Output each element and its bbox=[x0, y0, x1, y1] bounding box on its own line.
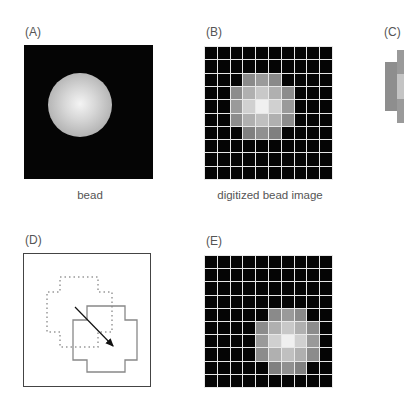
pixel-cell bbox=[218, 348, 230, 360]
pixel-cell bbox=[320, 335, 332, 347]
pixel-cell bbox=[320, 348, 332, 360]
pixel-cell bbox=[282, 296, 294, 308]
pixel-cell bbox=[218, 322, 230, 334]
pixel-cell bbox=[269, 348, 281, 360]
pixel-cell bbox=[282, 309, 294, 321]
pixel-cell bbox=[307, 256, 319, 268]
pixel-cell bbox=[282, 269, 294, 281]
pixel-cell bbox=[218, 256, 230, 268]
pixel-cell bbox=[205, 269, 217, 281]
pixel-cell bbox=[205, 335, 217, 347]
pixel-cell bbox=[256, 269, 268, 281]
pixel-cell bbox=[231, 348, 243, 360]
pixel-cell bbox=[307, 309, 319, 321]
pixel-cell bbox=[269, 256, 281, 268]
pixel-cell bbox=[307, 282, 319, 294]
pixel-cell bbox=[282, 335, 294, 347]
panel-e-label: (E) bbox=[206, 234, 222, 248]
pixel-cell bbox=[243, 282, 255, 294]
pixel-cell bbox=[243, 296, 255, 308]
pixel-cell bbox=[295, 335, 307, 347]
pixel-cell bbox=[269, 296, 281, 308]
pixel-cell bbox=[307, 269, 319, 281]
pixel-cell bbox=[205, 282, 217, 294]
pixel-cell bbox=[295, 348, 307, 360]
pixel-cell bbox=[307, 348, 319, 360]
pixel-cell bbox=[320, 322, 332, 334]
pixel-cell bbox=[320, 282, 332, 294]
pixel-cell bbox=[218, 282, 230, 294]
pixel-cell bbox=[282, 362, 294, 374]
pixel-cell bbox=[231, 309, 243, 321]
pixel-cell bbox=[243, 269, 255, 281]
pixel-cell bbox=[320, 296, 332, 308]
pixel-cell bbox=[256, 335, 268, 347]
pixel-cell bbox=[256, 348, 268, 360]
pixel-cell bbox=[218, 362, 230, 374]
pixel-cell bbox=[307, 296, 319, 308]
pixel-cell bbox=[282, 256, 294, 268]
pixel-cell bbox=[320, 375, 332, 387]
pixel-cell bbox=[295, 282, 307, 294]
pixel-cell bbox=[282, 322, 294, 334]
shifted-position-outline bbox=[73, 306, 137, 372]
pixel-cell bbox=[295, 269, 307, 281]
pixel-cell bbox=[269, 269, 281, 281]
pixel-cell bbox=[256, 256, 268, 268]
pixel-cell bbox=[269, 375, 281, 387]
pixel-cell bbox=[205, 309, 217, 321]
displacement-diagram bbox=[0, 0, 404, 395]
pixel-cell bbox=[243, 335, 255, 347]
pixel-cell bbox=[269, 309, 281, 321]
pixel-cell bbox=[320, 269, 332, 281]
pixel-cell bbox=[205, 322, 217, 334]
pixel-cell bbox=[307, 335, 319, 347]
pixel-cell bbox=[256, 309, 268, 321]
pixel-cell bbox=[282, 348, 294, 360]
pixel-cell bbox=[256, 296, 268, 308]
pixel-cell bbox=[269, 335, 281, 347]
pixel-cell bbox=[256, 375, 268, 387]
pixel-cell bbox=[256, 322, 268, 334]
pixel-cell bbox=[243, 256, 255, 268]
pixel-cell bbox=[231, 362, 243, 374]
pixel-cell bbox=[218, 269, 230, 281]
pixel-cell bbox=[307, 322, 319, 334]
pixel-cell bbox=[205, 348, 217, 360]
pixel-cell bbox=[231, 282, 243, 294]
pixel-cell bbox=[231, 256, 243, 268]
pixel-cell bbox=[295, 362, 307, 374]
pixel-cell bbox=[243, 348, 255, 360]
pixel-cell bbox=[307, 375, 319, 387]
displacement-arrow-icon bbox=[75, 307, 113, 346]
pixel-cell bbox=[320, 362, 332, 374]
pixel-cell bbox=[243, 322, 255, 334]
pixel-cell bbox=[243, 375, 255, 387]
pixel-cell bbox=[243, 362, 255, 374]
pixel-cell bbox=[231, 322, 243, 334]
pixel-cell bbox=[269, 362, 281, 374]
pixel-cell bbox=[243, 309, 255, 321]
pixel-cell bbox=[295, 256, 307, 268]
pixel-cell bbox=[218, 375, 230, 387]
pixel-cell bbox=[295, 296, 307, 308]
pixel-cell bbox=[231, 375, 243, 387]
pixel-cell bbox=[218, 309, 230, 321]
pixel-cell bbox=[205, 362, 217, 374]
pixel-cell bbox=[307, 362, 319, 374]
shifted-bead-grid bbox=[204, 255, 333, 388]
pixel-cell bbox=[256, 282, 268, 294]
pixel-cell bbox=[282, 375, 294, 387]
pixel-cell bbox=[269, 282, 281, 294]
pixel-cell bbox=[269, 322, 281, 334]
pixel-cell bbox=[320, 309, 332, 321]
pixel-cell bbox=[295, 322, 307, 334]
pixel-cell bbox=[218, 335, 230, 347]
pixel-cell bbox=[231, 335, 243, 347]
pixel-cell bbox=[218, 296, 230, 308]
pixel-cell bbox=[231, 296, 243, 308]
pixel-cell bbox=[205, 375, 217, 387]
pixel-cell bbox=[205, 296, 217, 308]
pixel-cell bbox=[231, 269, 243, 281]
pixel-cell bbox=[295, 309, 307, 321]
